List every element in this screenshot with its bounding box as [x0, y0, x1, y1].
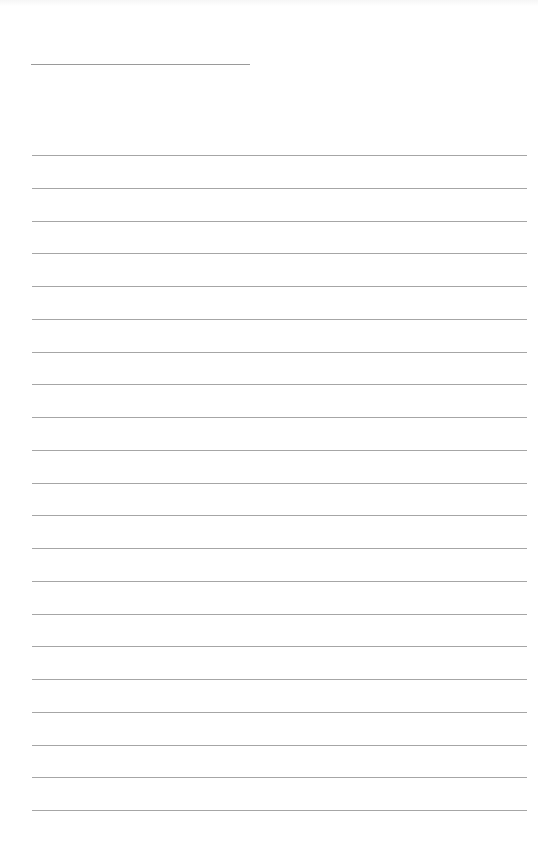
ruled-line — [32, 581, 527, 582]
ruled-line — [32, 712, 527, 713]
ruled-line — [32, 319, 527, 320]
ruled-line — [32, 155, 527, 156]
ruled-line — [32, 417, 527, 418]
header-name-line — [31, 64, 250, 65]
ruled-line — [32, 777, 527, 778]
ruled-line — [32, 286, 527, 287]
ruled-line — [32, 745, 527, 746]
ruled-line — [32, 384, 527, 385]
ruled-line — [32, 679, 527, 680]
ruled-page — [0, 0, 538, 866]
ruled-line — [32, 483, 527, 484]
ruled-line — [32, 253, 527, 254]
ruled-line — [32, 646, 527, 647]
ruled-line — [32, 614, 527, 615]
ruled-line — [32, 515, 527, 516]
ruled-line — [32, 450, 527, 451]
ruled-line — [32, 188, 527, 189]
ruled-line — [32, 221, 527, 222]
ruled-line — [32, 548, 527, 549]
ruled-line — [32, 810, 527, 811]
ruled-line — [32, 352, 527, 353]
